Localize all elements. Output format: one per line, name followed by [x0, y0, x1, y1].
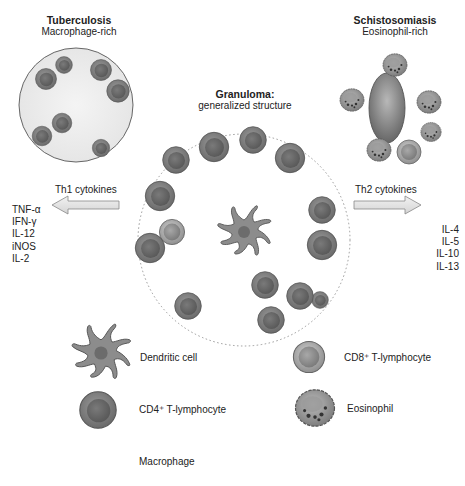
legend-cd4-label: CD4⁺ T-lymphocyte — [139, 404, 226, 416]
th2-cytokine-list: IL-4 IL-5 IL-10 IL-13 — [436, 224, 459, 273]
granuloma-title: Granuloma: — [180, 88, 310, 100]
tuberculosis-label: Tuberculosis Macrophage-rich — [24, 14, 134, 38]
legend-cd8-label: CD8⁺ T-lymphocyte — [344, 352, 431, 364]
legend-eosinophil-label: Eosinophil — [347, 403, 393, 415]
th1-cytokine: IL-12 — [12, 228, 41, 240]
th2-arrow — [354, 196, 421, 214]
schistosomiasis-subtitle: Eosinophil-rich — [340, 26, 450, 38]
granuloma-diagram — [0, 0, 465, 486]
eosinophil-icon — [296, 390, 335, 426]
tuberculosis-title: Tuberculosis — [24, 14, 134, 26]
cd8-lymphocyte-icon — [293, 341, 324, 372]
th1-cytokine: iNOS — [12, 241, 41, 253]
tuberculosis-granuloma — [19, 48, 133, 162]
th2-cytokine: IL-10 — [436, 248, 459, 260]
legend-dendritic-label: Dendritic cell — [140, 352, 197, 364]
th1-cytokine: IFN-γ — [12, 216, 41, 228]
dendritic-cell-icon — [72, 324, 130, 378]
central-granuloma — [135, 127, 350, 346]
th2-cytokine: IL-13 — [436, 261, 459, 273]
th1-cytokine: TNF-α — [12, 204, 41, 216]
th2-label: Th2 cytokines — [355, 184, 417, 196]
schistosomiasis-granuloma — [340, 54, 441, 164]
th1-cytokine-list: TNF-α IFN-γ IL-12 iNOS IL-2 — [12, 204, 41, 265]
th1-arrow — [52, 196, 119, 214]
schistosomiasis-label: Schistosomiasis Eosinophil-rich — [340, 14, 450, 38]
th2-cytokine: IL-4 — [436, 224, 459, 236]
schistosomiasis-title: Schistosomiasis — [340, 14, 450, 26]
th1-cytokine: IL-2 — [12, 253, 41, 265]
th1-label: Th1 cytokines — [55, 184, 117, 196]
tuberculosis-subtitle: Macrophage-rich — [24, 26, 134, 38]
th2-cytokine: IL-5 — [436, 236, 459, 248]
cd4-lymphocyte-icon — [80, 392, 116, 428]
granuloma-label: Granuloma: generalized structure — [180, 88, 310, 112]
legend-macrophage-label: Macrophage — [139, 456, 195, 468]
granuloma-subtitle: generalized structure — [180, 100, 310, 112]
